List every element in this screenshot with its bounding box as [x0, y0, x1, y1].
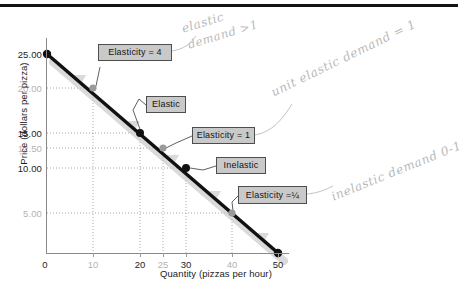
- y-axis-title: Price (dollars per pizza): [18, 44, 29, 184]
- figure-canvas: 25.00 20.00 15.00 12.50 10.00 5.00 0 10 …: [0, 0, 472, 284]
- x-axis-title: Quantity (pizzas per hour): [160, 268, 410, 279]
- x-tick-0: 0: [30, 259, 60, 270]
- x-tickmark-30: [186, 253, 187, 257]
- callout-fraction: ¼: [291, 191, 299, 200]
- x-axis-line: [46, 253, 289, 254]
- gridlines: [47, 88, 232, 253]
- callout-inelastic[interactable]: Inelastic: [216, 157, 266, 174]
- x-tickmark-50: [278, 253, 279, 257]
- callout-elastic[interactable]: Elastic: [146, 96, 186, 113]
- x-tickmark-10: [93, 253, 94, 257]
- y-tick-label: 5.00: [23, 208, 42, 219]
- x-tickmark-20: [140, 253, 141, 257]
- callout-elasticity-quarter[interactable]: Elasticity = ¼: [238, 186, 307, 204]
- callout-elasticity-4[interactable]: Elasticity = 4: [98, 44, 172, 61]
- callout-elasticity-1[interactable]: Elasticity = 1: [192, 127, 255, 144]
- demand-curve: [47, 54, 278, 253]
- x-tick-10: 10: [78, 259, 108, 270]
- callout-text-prefix: Elasticity =: [246, 191, 292, 200]
- y-axis-line: [46, 38, 47, 254]
- x-tickmark-25: [163, 253, 164, 257]
- x-tickmark-40: [232, 253, 233, 257]
